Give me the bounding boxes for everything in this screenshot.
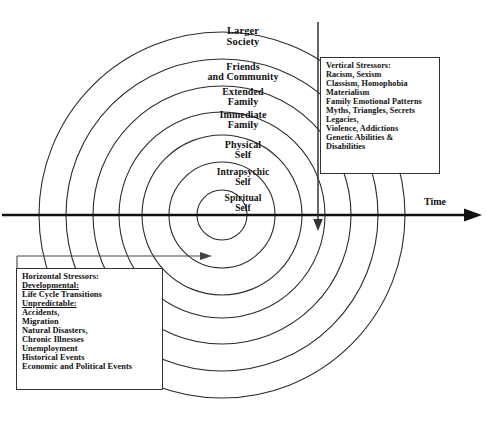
horizontal-stressors-item: Life Cycle Transitions xyxy=(22,290,157,299)
horizontal-stressors-item: Migration xyxy=(22,317,157,326)
horizontal-stressors-item: Historical Events xyxy=(22,353,157,362)
horizontal-stressor-arrowhead xyxy=(200,252,212,260)
vertical-stressors-item: Legacies, xyxy=(326,115,434,124)
ring-label-larger-society: Larger Society xyxy=(0,26,486,47)
vertical-stressors-item: Classism, Homophobia xyxy=(326,79,434,88)
vertical-stressors-item: Racism, Sexism xyxy=(326,70,434,79)
ring-label-spiritual-self: Spiritual Self xyxy=(0,194,486,213)
ring-label-line-2: Society xyxy=(0,37,486,48)
horizontal-stressors-item: Accidents, xyxy=(22,308,157,317)
horizontal-stressors-item: Natural Disasters, xyxy=(22,326,157,335)
time-axis-label: Time xyxy=(424,196,446,207)
horizontal-stressors-item: Chronic Illnesses xyxy=(22,335,157,344)
horizontal-stressors-item: Unemployment xyxy=(22,344,157,353)
ring-label-line-2: Self xyxy=(0,178,486,188)
vertical-stressors-item: Materialism xyxy=(326,88,434,97)
vertical-stressors-box: Vertical Stressors: Racism, Sexism Class… xyxy=(320,57,440,174)
vertical-stressor-arrowhead xyxy=(313,219,323,231)
vertical-stressors-heading: Vertical Stressors: xyxy=(326,61,434,70)
vertical-stressors-item: Violence, Addictions xyxy=(326,124,434,133)
horizontal-stressors-item: Economic and Political Events xyxy=(22,362,157,371)
horizontal-stressors-heading: Horizontal Stressors: xyxy=(22,272,157,281)
diagram-canvas: Larger Society Friends and Community Ext… xyxy=(0,0,486,422)
horizontal-stressors-subheading-developmental: Developmental: xyxy=(22,281,157,290)
ring-label-line-2: Self xyxy=(0,204,486,214)
horizontal-stressors-subheading-unpredictable: Unpredictable: xyxy=(22,299,157,308)
vertical-stressors-item: Disabilities xyxy=(326,142,434,151)
vertical-stressors-item: Genetic Abilities & xyxy=(326,133,434,142)
horizontal-stressors-box: Horizontal Stressors: Developmental: Lif… xyxy=(16,268,163,390)
vertical-stressors-item: Family Emotional Patterns xyxy=(326,97,434,106)
vertical-stressors-item: Myths, Triangles, Secrets xyxy=(326,106,434,115)
